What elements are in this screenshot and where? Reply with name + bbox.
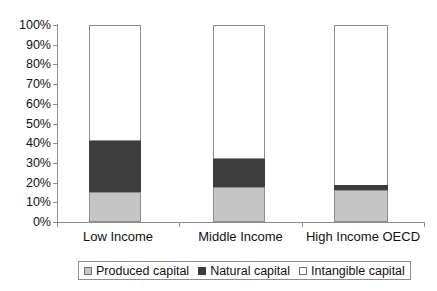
legend-swatch-icon bbox=[299, 267, 307, 275]
bar-segment-produced[interactable] bbox=[334, 190, 388, 222]
y-tick-label: 50% bbox=[26, 117, 51, 131]
x-tick-mark bbox=[302, 222, 303, 227]
y-tick-label: 100% bbox=[19, 18, 51, 32]
y-tick-label: 30% bbox=[26, 156, 51, 170]
bar-segment-intangible[interactable] bbox=[334, 25, 388, 187]
y-tick-label: 40% bbox=[26, 136, 51, 150]
bar-middle-income[interactable] bbox=[213, 25, 265, 222]
legend-swatch-icon bbox=[84, 267, 92, 275]
bar-segment-intangible[interactable] bbox=[89, 25, 141, 141]
x-axis-line bbox=[57, 222, 425, 223]
x-axis-label-low-income: Low Income bbox=[57, 229, 179, 245]
y-axis-tick-labels: 100% 90% 80% 70% 60% 50% 40% 30% 20% 10%… bbox=[0, 0, 51, 291]
bar-low-income[interactable] bbox=[89, 25, 141, 222]
x-axis-label-middle-income: Middle Income bbox=[179, 229, 302, 245]
legend-item-label: Intangible capital bbox=[311, 264, 405, 278]
legend-item-label: Produced capital bbox=[96, 264, 189, 278]
bar-high-income-oecd[interactable] bbox=[334, 25, 388, 222]
plot-area bbox=[57, 25, 425, 222]
bar-segment-natural[interactable] bbox=[213, 159, 265, 187]
bar-segment-produced[interactable] bbox=[213, 187, 265, 222]
stacked-bar-chart: 100% 90% 80% 70% 60% 50% 40% 30% 20% 10%… bbox=[0, 0, 437, 291]
bar-segment-produced[interactable] bbox=[89, 192, 141, 222]
y-tick-label: 80% bbox=[26, 57, 51, 71]
legend-item-natural-capital[interactable]: Natural capital bbox=[198, 264, 290, 278]
legend-item-produced-capital[interactable]: Produced capital bbox=[84, 264, 189, 278]
x-tick-mark bbox=[179, 222, 180, 227]
chart-legend: Produced capital Natural capital Intangi… bbox=[78, 261, 411, 280]
x-axis-label-high-income-oecd: High Income OECD bbox=[302, 229, 424, 245]
y-tick-label: 10% bbox=[26, 195, 51, 209]
x-tick-mark bbox=[424, 222, 425, 227]
legend-swatch-icon bbox=[198, 267, 206, 275]
legend-item-label: Natural capital bbox=[210, 264, 290, 278]
y-tick-label: 0% bbox=[33, 215, 51, 229]
legend-item-intangible-capital[interactable]: Intangible capital bbox=[299, 264, 405, 278]
y-tick-label: 20% bbox=[26, 176, 51, 190]
x-tick-mark bbox=[57, 222, 58, 227]
y-tick-label: 90% bbox=[26, 38, 51, 52]
bar-segment-intangible[interactable] bbox=[213, 25, 265, 159]
bar-segment-natural[interactable] bbox=[89, 141, 141, 192]
y-tick-label: 60% bbox=[26, 97, 51, 111]
y-tick-label: 70% bbox=[26, 77, 51, 91]
